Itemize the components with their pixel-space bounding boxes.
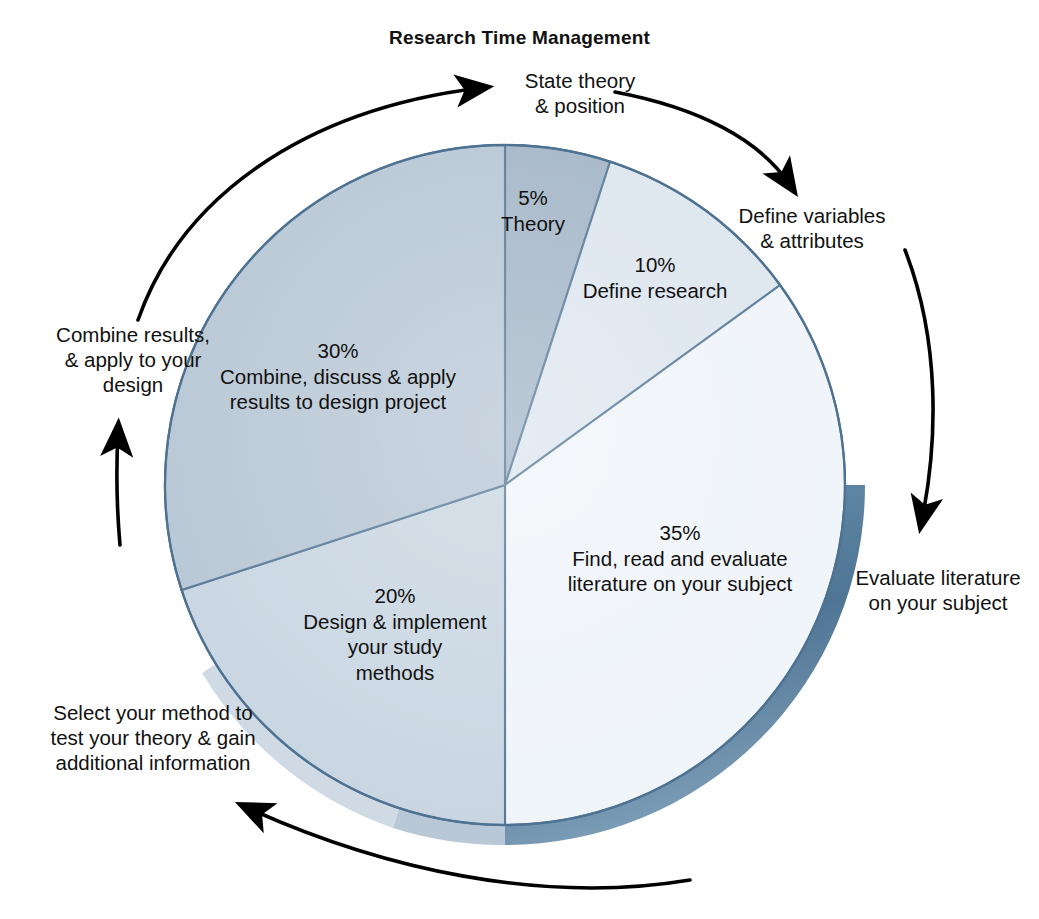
slice-label-find-read-evaluate: 35% Find, read and evaluate literature o… bbox=[535, 520, 825, 597]
annotation-select-method: Select your method to test your theory &… bbox=[28, 700, 278, 775]
pie-chart-graphic bbox=[0, 0, 1039, 919]
slice-label-design-implement: 20% Design & implement your study method… bbox=[285, 583, 505, 685]
chart-canvas: Research Time Management bbox=[0, 0, 1039, 919]
annotation-define-variables: Define variables & attributes bbox=[712, 203, 912, 253]
slice-label-combine-apply: 30% Combine, discuss & apply results to … bbox=[198, 338, 478, 415]
annotation-state-theory: State theory & position bbox=[490, 68, 670, 118]
annotation-evaluate-literature: Evaluate literature on your subject bbox=[838, 565, 1038, 615]
slice-label-theory: 5% Theory bbox=[473, 185, 593, 236]
arrow-to-evaluate-literature bbox=[905, 250, 933, 520]
annotation-combine-results: Combine results, & apply to your design bbox=[38, 322, 228, 397]
arrow-to-combine-results bbox=[117, 432, 120, 545]
slice-label-define-research: 10% Define research bbox=[560, 252, 750, 303]
